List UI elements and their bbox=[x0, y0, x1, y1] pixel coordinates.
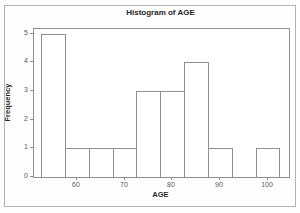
x-axis-title: AGE bbox=[33, 190, 288, 199]
y-axis-title: Frequency bbox=[3, 53, 12, 153]
histogram-bar bbox=[160, 91, 185, 177]
x-tick-mark bbox=[219, 177, 220, 180]
chart-title: Histogram of AGE bbox=[33, 8, 288, 17]
x-tick-mark bbox=[76, 177, 77, 180]
y-tick-label: 2 bbox=[8, 115, 28, 123]
histogram-bar bbox=[208, 148, 233, 177]
plot-area bbox=[33, 28, 290, 178]
y-tick-label: 3 bbox=[8, 86, 28, 94]
x-tick-label: 60 bbox=[64, 181, 88, 188]
x-tick-label: 100 bbox=[255, 181, 279, 188]
y-tick-mark bbox=[30, 119, 33, 120]
x-tick-label: 80 bbox=[159, 181, 183, 188]
y-tick-label: 1 bbox=[8, 143, 28, 151]
x-tick-mark bbox=[267, 177, 268, 180]
y-tick-label: 0 bbox=[8, 172, 28, 180]
histogram-bar bbox=[256, 148, 280, 177]
histogram-bar bbox=[65, 148, 90, 177]
histogram-bar bbox=[89, 148, 114, 177]
histogram-figure: Histogram of AGE AGE Frequency 607080901… bbox=[0, 0, 300, 213]
histogram-bar bbox=[136, 91, 161, 177]
y-tick-label: 5 bbox=[8, 29, 28, 37]
y-tick-mark bbox=[30, 176, 33, 177]
y-tick-mark bbox=[30, 147, 33, 148]
y-tick-label: 4 bbox=[8, 57, 28, 65]
histogram-bar bbox=[41, 34, 66, 177]
y-tick-mark bbox=[30, 33, 33, 34]
histogram-bar bbox=[113, 148, 137, 177]
x-tick-label: 70 bbox=[112, 181, 136, 188]
x-tick-mark bbox=[171, 177, 172, 180]
histogram-bar bbox=[184, 62, 209, 177]
x-tick-mark bbox=[124, 177, 125, 180]
x-tick-label: 90 bbox=[207, 181, 231, 188]
y-tick-mark bbox=[30, 90, 33, 91]
y-tick-mark bbox=[30, 61, 33, 62]
